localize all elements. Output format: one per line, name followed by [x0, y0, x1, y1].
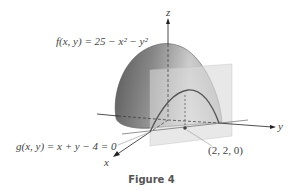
f-equation-label: f(x, y) = 25 − x² − y²	[56, 35, 148, 47]
point-2-2-0	[183, 126, 187, 130]
figure-caption: Figure 4	[0, 174, 303, 185]
z-axis-label: z	[166, 6, 170, 18]
x-axis-label: x	[104, 156, 109, 168]
point-label: (2, 2, 0)	[208, 144, 243, 156]
y-axis-label: y	[278, 120, 283, 132]
plane-g	[150, 64, 232, 146]
figure-4: f(x, y) = 25 − x² − y² g(x, y) = x + y −…	[0, 0, 303, 194]
g-equation-label: g(x, y) = x + y − 4 = 0	[16, 140, 117, 152]
paraboloid-plot	[0, 0, 303, 194]
